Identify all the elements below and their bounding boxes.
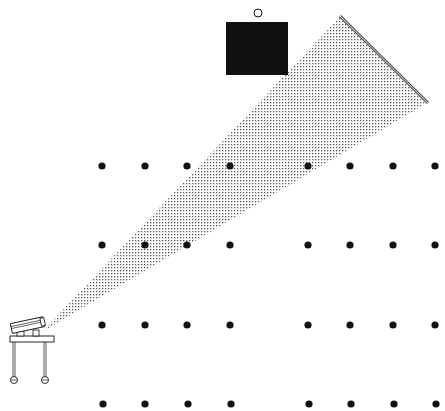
seat-dot bbox=[346, 241, 353, 248]
seat-dot bbox=[141, 162, 148, 169]
seat-dot bbox=[98, 321, 105, 328]
seat-dot bbox=[99, 400, 106, 407]
seat-dot bbox=[389, 321, 396, 328]
seat-dot bbox=[184, 400, 191, 407]
seat-dot bbox=[389, 241, 396, 248]
seat-dot bbox=[389, 162, 396, 169]
seat-dot bbox=[431, 241, 438, 248]
seat-dot bbox=[305, 400, 312, 407]
seat-dot bbox=[226, 321, 233, 328]
seat-dot bbox=[346, 162, 353, 169]
projector-foot bbox=[33, 330, 39, 336]
seat-dot bbox=[390, 400, 397, 407]
seat-dot bbox=[304, 321, 311, 328]
speaker-box bbox=[226, 9, 288, 75]
seat-dot bbox=[431, 162, 438, 169]
indicator-circle-icon bbox=[254, 9, 262, 17]
seat-dot bbox=[183, 162, 190, 169]
seat-dot bbox=[98, 241, 105, 248]
seat-dot bbox=[347, 400, 354, 407]
seat-dot bbox=[183, 321, 190, 328]
diagram-canvas bbox=[0, 0, 445, 411]
seat-dot bbox=[431, 321, 438, 328]
projector-body bbox=[10, 317, 45, 334]
seat-dot bbox=[183, 241, 190, 248]
projection-diagram bbox=[0, 0, 445, 411]
seat-dot bbox=[304, 241, 311, 248]
seat-dot bbox=[346, 321, 353, 328]
seat-dot bbox=[227, 400, 234, 407]
seat-dot bbox=[226, 162, 233, 169]
seat-dot bbox=[98, 162, 105, 169]
seat-dot bbox=[141, 321, 148, 328]
seat-dot bbox=[141, 241, 148, 248]
black-box bbox=[226, 22, 288, 75]
seat-dot bbox=[141, 400, 148, 407]
seat-dot bbox=[304, 162, 311, 169]
seat-dot bbox=[432, 400, 439, 407]
cart-top bbox=[10, 336, 54, 342]
seat-dot bbox=[226, 241, 233, 248]
seat-grid bbox=[98, 162, 439, 407]
